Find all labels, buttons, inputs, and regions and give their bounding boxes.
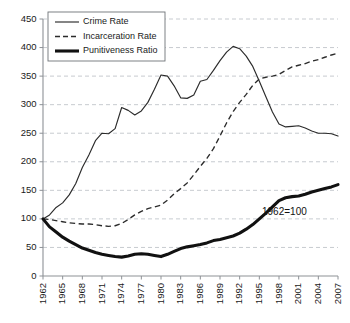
- legend-label-crime-rate: Crime Rate: [83, 16, 129, 26]
- x-tick-label: 1986: [194, 283, 205, 304]
- x-tick-label: 1974: [115, 283, 126, 304]
- chart-legend: Crime Rate Incarceration Rate Punitivene…: [48, 12, 165, 61]
- y-tick-label: 300: [21, 98, 37, 109]
- x-tick-label: 1992: [233, 283, 244, 304]
- y-tick-label: 200: [21, 155, 37, 166]
- y-tick-label: 150: [21, 184, 37, 195]
- legend-label-incarceration-rate: Incarceration Rate: [83, 31, 157, 41]
- x-tick-label: 1971: [96, 283, 107, 304]
- series-line-crime-rate: [43, 46, 338, 218]
- x-tick-label: 1989: [214, 283, 225, 304]
- x-tick-label: 1968: [76, 283, 87, 304]
- x-axis-tick-labels: 1962196519681971197419771980198319861989…: [37, 283, 343, 304]
- x-tick-label: 1962: [37, 283, 48, 304]
- y-tick-label: 450: [21, 13, 37, 24]
- x-tick-label: 2007: [332, 283, 343, 304]
- chart-canvas: 050100150200250300350400450 196219651968…: [0, 0, 350, 323]
- line-chart: 050100150200250300350400450 196219651968…: [0, 0, 350, 323]
- y-tick-label: 350: [21, 70, 37, 81]
- y-tick-label: 50: [26, 241, 37, 252]
- y-axis-tick-labels: 050100150200250300350400450: [21, 13, 37, 281]
- x-tick-label: 1995: [253, 283, 264, 304]
- x-tick-label: 1977: [135, 283, 146, 304]
- index-base-annotation: 1962=100: [262, 206, 307, 217]
- y-tick-label: 250: [21, 127, 37, 138]
- series-line-incarceration-rate: [43, 53, 338, 226]
- x-tick-label: 1980: [155, 283, 166, 304]
- x-tick-label: 1965: [56, 283, 67, 304]
- series-line-punitiveness-ratio: [43, 185, 338, 258]
- x-tick-label: 2001: [292, 283, 303, 304]
- legend-label-punitiveness-ratio: Punitiveness Ratio: [83, 45, 158, 55]
- x-tick-label: 1983: [174, 283, 185, 304]
- y-tick-label: 400: [21, 41, 37, 52]
- x-tick-label: 1998: [273, 283, 284, 304]
- x-tick-label: 2004: [312, 283, 323, 304]
- y-tick-label: 100: [21, 212, 37, 223]
- y-tick-label: 0: [31, 270, 36, 281]
